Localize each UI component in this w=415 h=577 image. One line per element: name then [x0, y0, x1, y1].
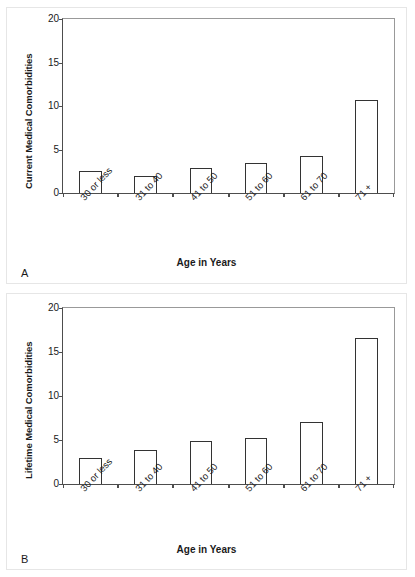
y-tick-label: 15	[39, 58, 59, 68]
x-tick-mark	[393, 484, 394, 488]
panel-letter-a: A	[21, 267, 28, 279]
bars-layer-a	[63, 19, 394, 193]
x-tick-mark	[63, 193, 64, 197]
x-tick-mark	[339, 484, 340, 488]
x-tick-mark	[173, 484, 174, 488]
plot-area-b	[62, 307, 395, 485]
x-tick-mark	[393, 193, 394, 197]
x-tick-mark	[118, 193, 119, 197]
y-axis-ticks-b: 05101520	[35, 307, 59, 485]
y-tick-label: 15	[39, 347, 59, 357]
x-axis-title-a: Age in Years	[7, 257, 406, 268]
x-tick-mark	[173, 193, 174, 197]
bars-layer-b	[63, 308, 394, 484]
chart-panel-b: Lifetime Medical Comorbidities 05101520 …	[6, 293, 407, 570]
y-tick-label: 20	[39, 14, 59, 24]
chart-panel-a: Current Medical Comorbidities 05101520 3…	[6, 7, 407, 284]
y-tick-label: 10	[39, 101, 59, 111]
panel-letter-b: B	[21, 553, 28, 565]
x-tick-mark	[118, 484, 119, 488]
y-axis-title-a: Current Medical Comorbidities	[23, 54, 34, 189]
y-tick-label: 20	[39, 303, 59, 313]
x-tick-mark	[284, 193, 285, 197]
bar	[355, 338, 378, 484]
bar	[355, 100, 378, 193]
plot-area-a	[62, 18, 395, 194]
y-axis-ticks-a: 05101520	[35, 18, 59, 194]
x-tick-mark	[284, 484, 285, 488]
x-tick-mark	[229, 484, 230, 488]
y-tick-label: 10	[39, 391, 59, 401]
x-tick-mark	[229, 193, 230, 197]
x-axis-title-b: Age in Years	[7, 544, 406, 555]
y-tick-label: 0	[39, 479, 59, 489]
x-tick-mark	[339, 193, 340, 197]
x-tick-mark	[63, 484, 64, 488]
y-tick-label: 5	[39, 435, 59, 445]
y-tick-label: 5	[39, 145, 59, 155]
y-axis-title-b: Lifetime Medical Comorbidities	[23, 342, 34, 479]
y-tick-label: 0	[39, 188, 59, 198]
